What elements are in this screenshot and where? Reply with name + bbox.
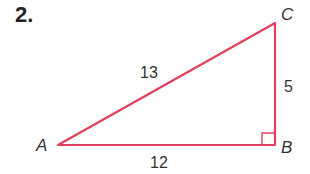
side-ab-label: 12 (150, 154, 168, 171)
right-triangle-diagram: A B C 13 5 12 (0, 0, 310, 174)
right-angle-marker (262, 133, 275, 145)
side-bc-label: 5 (284, 78, 293, 95)
triangle-abc (58, 23, 275, 145)
vertex-c-label: C (281, 5, 294, 24)
vertex-a-label: A (35, 136, 47, 155)
side-ac-label: 13 (140, 64, 158, 81)
vertex-b-label: B (281, 138, 292, 157)
